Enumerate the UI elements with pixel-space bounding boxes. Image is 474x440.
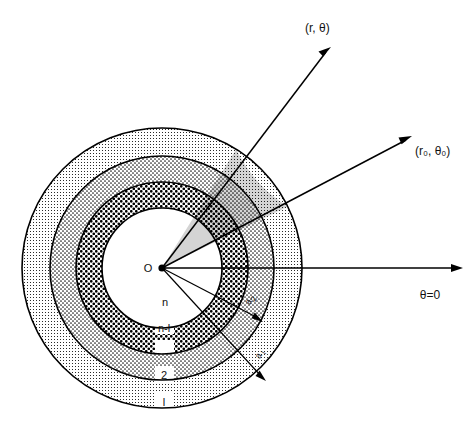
label-layer-n-minus-1: n-l [158, 322, 170, 334]
label-reference-axis: θ=0 [420, 288, 441, 302]
label-origin: O [144, 262, 153, 274]
cutout-gap-a [155, 340, 174, 354]
origin-dot [158, 264, 165, 271]
concentric-layer-diagram: (r, θ) (r₀, θ₀) θ=0 O n n-l 2 l a 2 a l [0, 0, 474, 440]
label-field-point: (r, θ) [305, 21, 330, 35]
label-layer-1: l [163, 396, 165, 408]
ray-reference-axis-arrowhead [451, 264, 463, 272]
ray-field-point-arrowhead [319, 47, 332, 57]
label-layer-2: 2 [161, 369, 167, 381]
figure-root: (r, θ) (r₀, θ₀) θ=0 O n n-l 2 l a 2 a l [0, 0, 474, 440]
label-source-point: (r₀, θ₀) [415, 144, 450, 158]
label-layer-n: n [162, 296, 168, 308]
